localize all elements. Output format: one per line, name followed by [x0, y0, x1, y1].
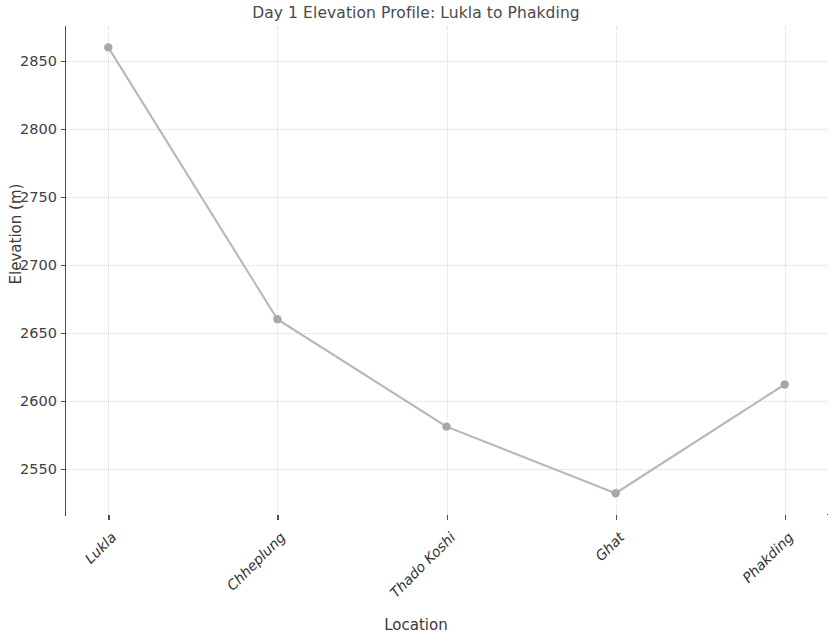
y-tick-label: 2750: [20, 189, 57, 205]
chart-title: Day 1 Elevation Profile: Lukla to Phakdi…: [0, 4, 832, 22]
data-point: [104, 43, 112, 51]
chart-figure: Day 1 Elevation Profile: Lukla to Phakdi…: [0, 0, 832, 642]
y-tick-label: 2550: [20, 461, 57, 477]
elevation-series: [66, 27, 827, 515]
y-tick-label: 2850: [20, 53, 57, 69]
y-tick-label: 2700: [20, 257, 57, 273]
y-tick-label: 2650: [20, 325, 57, 341]
x-tick-mark: [277, 515, 278, 520]
x-axis-label: Location: [0, 616, 832, 634]
data-point: [442, 422, 450, 430]
y-tick-label: 2600: [20, 393, 57, 409]
data-point: [611, 489, 619, 497]
x-tick-mark: [447, 515, 448, 520]
x-tick-mark: [108, 515, 109, 520]
x-tick-mark: [616, 515, 617, 520]
y-tick-label: 2800: [20, 121, 57, 137]
y-axis-label: Elevation (m): [7, 164, 25, 304]
x-tick-mark: [785, 515, 786, 520]
data-point: [781, 380, 789, 388]
data-point: [273, 315, 281, 323]
plot-area: 2550260026502700275028002850 LuklaChhepl…: [66, 27, 827, 515]
elevation-markers: [104, 43, 789, 497]
